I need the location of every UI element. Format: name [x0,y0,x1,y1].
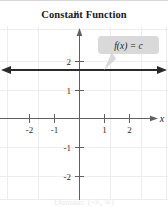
y-tick-label-1: 1 [67,86,72,96]
constant-function-figure: Constant Function [0,0,168,207]
figure-caption: Domain: (-∞, ∞) [0,196,168,207]
callout-label: f(x) = c [114,41,143,52]
y-axis [77,28,83,200]
x-tick-label-neg1: -1 [51,125,59,135]
y-tick-label-neg1: -1 [64,143,72,153]
y-tick-label-2: 2 [67,57,72,67]
x-tick-label-neg2: -2 [26,125,34,135]
figure-title: Constant Function [0,9,168,20]
coordinate-plane-svg: x -2 -1 1 2 2 1 -1 -2 f(x) = c [0,26,168,200]
plot-area: x -2 -1 1 2 2 1 -1 -2 f(x) = c [0,26,168,200]
y-tick-label-neg2: -2 [64,172,72,182]
x-tick-label-1: 1 [102,125,107,135]
x-tick-label-2: 2 [127,125,132,135]
constant-function-line [1,66,167,74]
callout-bubble: f(x) = c [98,36,159,70]
top-divider-line [0,0,168,1]
y-axis-letter: y [68,7,84,18]
x-axis-label: x [159,113,165,124]
